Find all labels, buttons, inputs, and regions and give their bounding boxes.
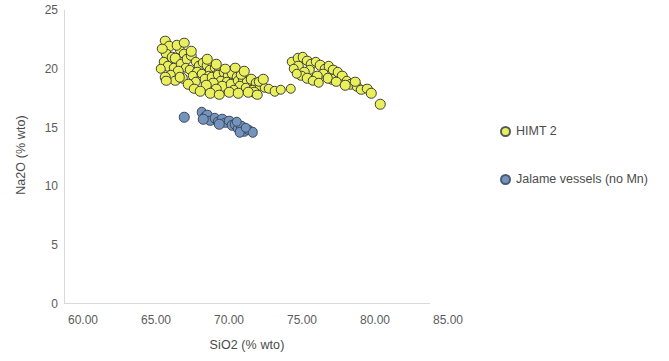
data-point [258, 74, 269, 85]
x-tick-label: 75.00 [287, 313, 317, 327]
x-tick-label: 70.00 [214, 313, 244, 327]
data-point [174, 72, 185, 83]
data-point [275, 85, 286, 96]
data-point [195, 86, 206, 97]
plot-area [64, 10, 430, 304]
data-point [157, 44, 168, 55]
data-point [179, 112, 190, 123]
data-point [214, 89, 225, 100]
scatter-chart: 25 20 15 10 5 0 60.00 65.00 70.00 75.00 … [0, 0, 669, 361]
data-point [240, 122, 251, 133]
x-tick-label: 80.00 [360, 313, 390, 327]
data-point [186, 46, 197, 57]
data-point [292, 68, 303, 79]
data-point [366, 88, 377, 99]
data-point [211, 59, 222, 70]
x-axis-title: SiO2 (% wto) [64, 338, 430, 352]
data-point [161, 75, 172, 86]
y-axis-title: Na2O (% wto) [14, 90, 28, 220]
data-point [340, 80, 351, 91]
x-tick-label: 85.00 [433, 313, 463, 327]
data-point [252, 89, 263, 100]
chart-legend: HIMT 2 Jalame vessels (no Mn) [500, 0, 669, 361]
data-point [214, 119, 225, 130]
data-point [198, 114, 209, 125]
legend-label: HIMT 2 [516, 124, 557, 138]
x-tick-label: 65.00 [141, 313, 171, 327]
legend-label: Jalame vessels (no Mn) [516, 172, 648, 186]
data-point [375, 99, 386, 110]
data-point [286, 84, 297, 95]
circle-marker-yellow-icon [500, 126, 511, 137]
data-point [239, 66, 250, 77]
legend-item-jalame-vessels[interactable]: Jalame vessels (no Mn) [500, 172, 648, 186]
x-tick-label: 60.00 [68, 313, 98, 327]
data-point [233, 88, 244, 99]
legend-item-himt-2[interactable]: HIMT 2 [500, 124, 557, 138]
circle-marker-blue-icon [500, 174, 511, 185]
data-point [350, 76, 361, 87]
